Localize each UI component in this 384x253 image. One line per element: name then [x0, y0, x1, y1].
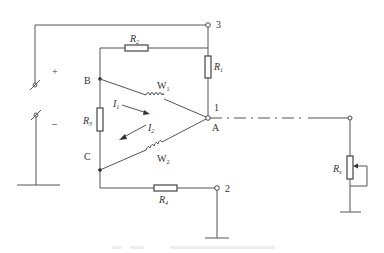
node-a-label: A: [212, 122, 220, 133]
node-a: [206, 116, 211, 121]
source-plus-label: +: [52, 66, 58, 77]
circuit-diagram: 3 R2 R1 1 A B R3 C W1 W2 I1: [0, 0, 384, 253]
current-i2-arrow: [119, 125, 146, 140]
figure-caption-faint: [112, 246, 275, 249]
rx-terminal: [348, 116, 352, 120]
i1-label: I1: [112, 98, 119, 110]
w2-label: W2: [157, 153, 169, 165]
resistor-r4: [154, 185, 177, 191]
current-i1-arrow: [122, 105, 150, 115]
resistor-rx: [347, 156, 353, 179]
w1-label: W1: [157, 80, 169, 92]
node-c-label: C: [84, 151, 91, 162]
r3-label: R3: [82, 115, 92, 127]
terminal-2-label: 2: [225, 183, 230, 194]
resistor-r3: [97, 108, 103, 131]
winding-w2: [100, 119, 206, 170]
ground-symbol-terminal-2: [205, 190, 229, 238]
r1-label: R1: [213, 61, 223, 73]
terminal-1-label: 1: [214, 102, 219, 113]
terminal-3-connector: [206, 23, 211, 28]
terminal-2-connector: [215, 186, 220, 191]
r4-label: R4: [158, 194, 168, 206]
resistor-r1: [205, 56, 211, 78]
r2-label: R2: [129, 33, 139, 45]
terminal-3-label: 3: [216, 19, 221, 30]
node-b-label: B: [84, 75, 91, 86]
i2-label: I2: [147, 122, 154, 134]
rx-label: Rx: [332, 163, 342, 175]
resistor-r2: [125, 45, 148, 51]
top-supply-wire: [35, 25, 206, 84]
wire-b-r2: [100, 48, 125, 79]
source-minus-label: –: [51, 118, 58, 129]
